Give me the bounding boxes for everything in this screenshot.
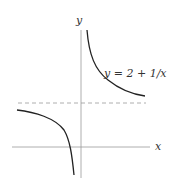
graph: y x y = 2 + 1/x [0, 0, 176, 180]
curve-lower-branch [17, 110, 74, 175]
x-axis-label: x [155, 140, 162, 153]
curve-label: y = 2 + 1/x [103, 67, 167, 80]
y-axis-label: y [75, 14, 83, 27]
curve-upper-branch [87, 30, 145, 96]
